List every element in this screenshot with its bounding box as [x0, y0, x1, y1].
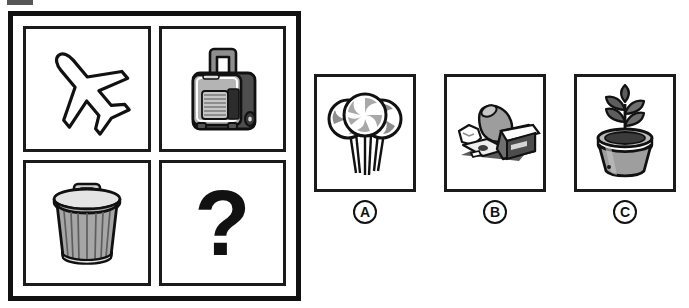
matrix-cell-top-right[interactable] [159, 26, 287, 152]
option-a-box[interactable] [314, 74, 416, 192]
matrix-cell-bottom-left[interactable] [23, 160, 151, 286]
litter-icon [449, 87, 541, 179]
option-b-letter: B [483, 200, 507, 224]
option-c-letter: C [613, 200, 637, 224]
option-a-letter: A [353, 200, 377, 224]
option-c-box[interactable] [574, 74, 676, 192]
option-b-box[interactable] [444, 74, 546, 192]
answer-option-c[interactable]: C [574, 74, 676, 239]
trash-can-icon [35, 171, 139, 275]
question-mark-placeholder: ? [194, 182, 250, 265]
answer-options: A [314, 74, 676, 239]
matrix-cell-top-left[interactable] [23, 26, 151, 152]
matrix-grid: ? [13, 16, 296, 296]
answer-option-a[interactable]: A [314, 74, 416, 239]
airplane-icon [35, 37, 139, 141]
page-edge-artifact [7, 0, 33, 5]
lollipops-icon [320, 83, 410, 183]
answer-option-b[interactable]: B [444, 74, 546, 239]
matrix-panel: ? [8, 11, 301, 301]
matrix-cell-bottom-right[interactable]: ? [159, 160, 287, 286]
puzzle-canvas: ? [0, 0, 689, 308]
suitcase-icon [170, 37, 274, 141]
potted-plant-icon [581, 84, 669, 182]
